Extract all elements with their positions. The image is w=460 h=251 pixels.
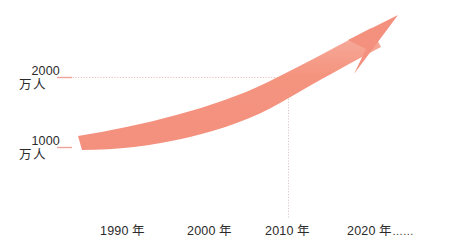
x-axis-tick-label-2000: 2000 年 bbox=[187, 224, 232, 238]
chart-canvas bbox=[0, 0, 460, 251]
growth-arrow-chart: 2000 万人 1000 万人 1990 年 2000 年 2010 年 202… bbox=[0, 0, 460, 251]
x-tick-2020-year: 2020 年 bbox=[347, 224, 392, 238]
growth-arrow bbox=[78, 15, 398, 150]
y-tick-1000-number: 1000 bbox=[8, 135, 60, 149]
y-tick-1000-unit: 万人 bbox=[8, 149, 60, 163]
x-axis-tick-label-1990: 1990 年 bbox=[100, 224, 145, 238]
x-tick-2020-ellipsis: ...... bbox=[392, 225, 413, 237]
y-tick-2000-number: 2000 bbox=[8, 65, 60, 79]
y-axis-tick-label-1000: 1000 万人 bbox=[8, 135, 60, 162]
x-axis-tick-label-2010: 2010 年 bbox=[265, 224, 310, 238]
arrow-band bbox=[78, 28, 381, 150]
x-axis-tick-label-2020: 2020 年...... bbox=[347, 224, 414, 238]
y-axis-tick-label-2000: 2000 万人 bbox=[8, 65, 60, 92]
y-tick-2000-unit: 万人 bbox=[8, 79, 60, 93]
